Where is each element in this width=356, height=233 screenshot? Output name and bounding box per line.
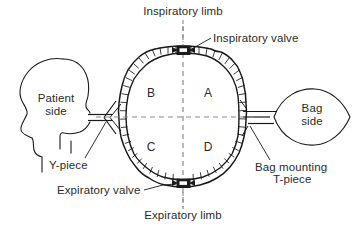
quadrant-label-d: D: [198, 141, 218, 153]
leader-y-piece: [85, 122, 106, 158]
label-expiratory-limb: Expiratory limb: [133, 209, 233, 222]
leader-bag-mounting-t-piece: [250, 126, 270, 160]
label-y-piece: Y-piece: [49, 159, 88, 172]
label-bag-side-line2: side: [292, 115, 332, 128]
label-bag-mounting-line2: T-piece: [273, 173, 311, 186]
label-bag-mounting-line1: Bag mounting: [255, 161, 327, 174]
label-inspiratory-valve: Inspiratory valve: [213, 32, 298, 45]
quadrant-label-b: B: [141, 87, 161, 99]
label-patient-side-line2: side: [33, 105, 79, 118]
label-bag-side-line1: Bag: [292, 102, 332, 115]
quadrant-label-c: C: [141, 141, 161, 153]
label-patient-side-line1: Patient: [33, 92, 79, 105]
leader-expiratory-valve: [144, 184, 176, 190]
quadrant-label-a: A: [198, 87, 218, 99]
label-expiratory-valve: Expiratory valve: [57, 184, 140, 197]
breathing-circuit-diagram: Inspiratory limb Inspiratory valve Expir…: [0, 0, 356, 233]
label-inspiratory-limb: Inspiratory limb: [133, 5, 233, 18]
